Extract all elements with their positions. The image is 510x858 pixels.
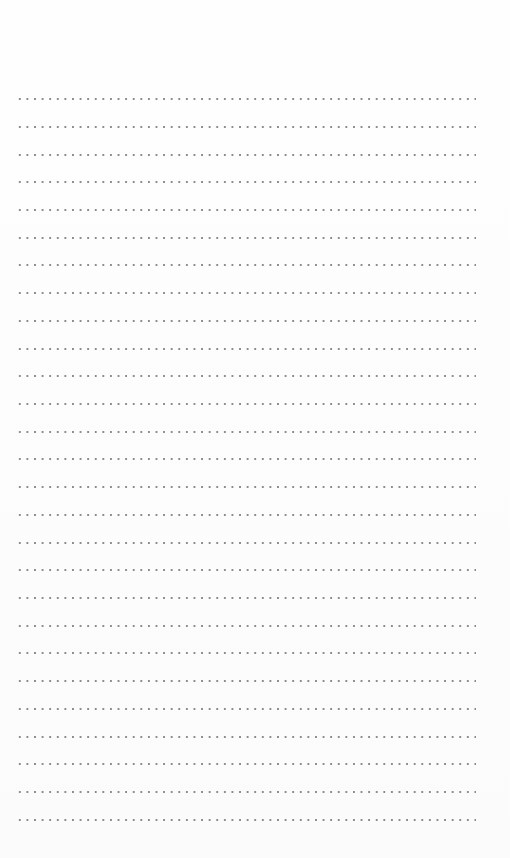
dotted-writing-line	[16, 154, 476, 156]
dotted-writing-line	[16, 375, 476, 377]
dotted-writing-line	[16, 708, 476, 710]
dotted-writing-line	[16, 292, 476, 294]
dotted-writing-line	[16, 126, 476, 128]
dotted-writing-line	[16, 237, 476, 239]
dotted-writing-line	[16, 458, 476, 460]
dotted-writing-line	[16, 181, 476, 183]
dotted-writing-line	[16, 791, 476, 793]
dotted-writing-line	[16, 98, 476, 100]
dotted-writing-line	[16, 625, 476, 627]
dotted-lines-container	[0, 0, 510, 858]
dotted-writing-line	[16, 819, 476, 821]
dotted-writing-line	[16, 763, 476, 765]
dotted-writing-line	[16, 348, 476, 350]
dotted-writing-line	[16, 264, 476, 266]
dotted-writing-line	[16, 514, 476, 516]
dotted-writing-line	[16, 652, 476, 654]
dotted-writing-line	[16, 486, 476, 488]
dotted-writing-line	[16, 597, 476, 599]
dotted-writing-line	[16, 736, 476, 738]
dotted-writing-line	[16, 542, 476, 544]
dotted-writing-line	[16, 431, 476, 433]
dotted-writing-line	[16, 403, 476, 405]
dotted-writing-line	[16, 320, 476, 322]
dotted-writing-line	[16, 680, 476, 682]
dotted-writing-line	[16, 569, 476, 571]
dotted-writing-line	[16, 209, 476, 211]
writing-page	[0, 0, 510, 858]
